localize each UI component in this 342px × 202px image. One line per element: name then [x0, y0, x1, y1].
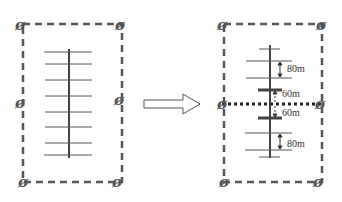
pile-icon: ø [111, 173, 123, 191]
transform-arrow-icon [144, 94, 200, 114]
pile-icon: ø [218, 173, 230, 191]
spacing-label-top: 80m [287, 63, 305, 74]
pile-icon: ø [17, 173, 29, 191]
pile-icon: ø [216, 95, 228, 113]
spacing-label-upper-center: 60m [282, 88, 300, 99]
left-dashed-boundary [23, 24, 122, 182]
spacing-label-lower-center: 60m [282, 107, 300, 118]
pile-icon: ø [314, 95, 326, 113]
left-panel: ø ø ø ø ø ø [14, 16, 126, 191]
pile-icon: ø [315, 16, 327, 34]
pile-icon: ø [14, 16, 26, 34]
pile-icon: ø [312, 173, 324, 191]
right-panel: 80m 60m 60m 80m ø ø ø ø ø ø [216, 16, 327, 191]
spacing-label-bottom: 80m [287, 138, 305, 149]
pile-icon: ø [114, 16, 126, 34]
pile-icon: ø [14, 94, 26, 112]
pile-icon: ø [113, 91, 125, 109]
diagram-canvas: ø ø ø ø ø ø [0, 0, 342, 202]
pile-icon: ø [216, 16, 228, 34]
